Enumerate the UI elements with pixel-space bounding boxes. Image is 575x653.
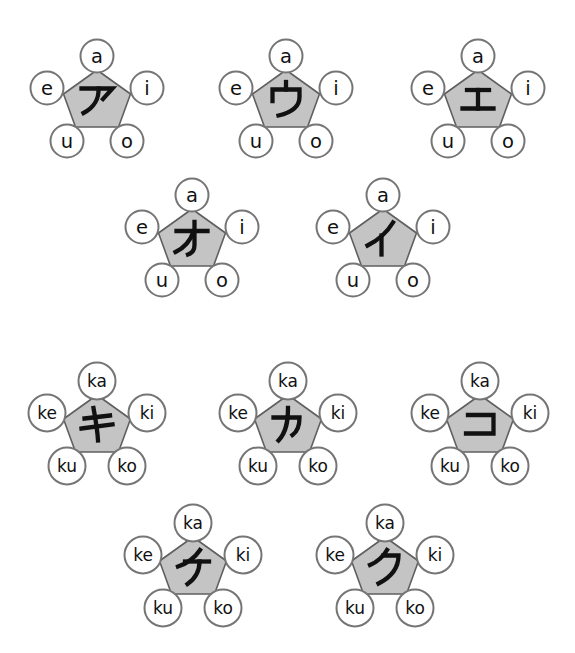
romaji-label-bottom-left: u bbox=[442, 130, 454, 153]
romaji-label-left: ke bbox=[133, 545, 153, 565]
romaji-label-bottom-right: ko bbox=[500, 456, 520, 476]
romaji-label-right: i bbox=[144, 77, 149, 100]
kana-unit-u: a e i u o bbox=[211, 35, 361, 165]
kana-unit-ke: ka ke ki ku ko bbox=[118, 502, 268, 632]
romaji-label-top: a bbox=[186, 184, 198, 207]
pentagon-shape bbox=[447, 395, 514, 452]
romaji-label-bottom-left: u bbox=[250, 130, 262, 153]
kana-unit-e: a e i u o bbox=[403, 35, 553, 165]
katakana-pentagon-diagram: a e i u o a e i u o a e i u o bbox=[0, 0, 575, 653]
romaji-label-bottom-left: ku bbox=[248, 456, 268, 476]
romaji-label-bottom-right: o bbox=[502, 130, 514, 153]
romaji-label-left: e bbox=[422, 77, 434, 100]
romaji-label-bottom-right: ko bbox=[405, 598, 425, 618]
kana-unit-o: a e i u o bbox=[117, 174, 267, 304]
kana-unit-ki: ka ke ki ku ko bbox=[22, 360, 172, 490]
romaji-label-left: e bbox=[230, 77, 242, 100]
pentagon-shape bbox=[253, 70, 320, 127]
romaji-label-right: ki bbox=[523, 403, 538, 423]
romaji-label-top: ka bbox=[183, 513, 203, 533]
romaji-label-right: i bbox=[525, 77, 530, 100]
romaji-label-left: ke bbox=[325, 545, 345, 565]
romaji-label-right: i bbox=[430, 216, 435, 239]
romaji-label-bottom-right: ko bbox=[213, 598, 233, 618]
kana-unit-ka: ka ke ki ku ko bbox=[213, 360, 363, 490]
romaji-label-top: a bbox=[91, 45, 103, 68]
romaji-label-left: ke bbox=[228, 403, 248, 423]
romaji-label-top: a bbox=[377, 184, 389, 207]
romaji-label-top: a bbox=[280, 45, 292, 68]
pentagon-shape bbox=[352, 537, 419, 594]
romaji-label-top: ka bbox=[375, 513, 395, 533]
romaji-label-right: ki bbox=[236, 545, 251, 565]
romaji-label-bottom-left: u bbox=[61, 130, 73, 153]
romaji-label-bottom-right: o bbox=[407, 269, 419, 292]
romaji-label-left: ke bbox=[37, 403, 57, 423]
romaji-label-bottom-left: u bbox=[156, 269, 168, 292]
romaji-label-top: ka bbox=[470, 371, 490, 391]
romaji-label-bottom-left: ku bbox=[57, 456, 77, 476]
romaji-label-left: e bbox=[41, 77, 53, 100]
romaji-label-right: ki bbox=[428, 545, 443, 565]
romaji-label-top: ka bbox=[87, 371, 107, 391]
romaji-label-left: ke bbox=[420, 403, 440, 423]
kana-unit-ko: ka ke ki ku ko bbox=[405, 360, 555, 490]
romaji-label-right: ki bbox=[140, 403, 155, 423]
pentagon-shape bbox=[160, 537, 227, 594]
romaji-label-top: ka bbox=[278, 371, 298, 391]
romaji-label-right: i bbox=[333, 77, 338, 100]
kana-unit-a: a e i u o bbox=[22, 35, 172, 165]
kana-unit-ku: ka ke ki ku ko bbox=[310, 502, 460, 632]
romaji-label-left: e bbox=[136, 216, 148, 239]
romaji-label-left: e bbox=[327, 216, 339, 239]
romaji-label-top: a bbox=[472, 45, 484, 68]
romaji-label-bottom-right: ko bbox=[117, 456, 137, 476]
romaji-label-bottom-left: u bbox=[347, 269, 359, 292]
kana-unit-i: a e i u o bbox=[308, 174, 458, 304]
romaji-label-bottom-right: o bbox=[310, 130, 322, 153]
romaji-label-right: ki bbox=[331, 403, 346, 423]
romaji-label-bottom-left: ku bbox=[345, 598, 365, 618]
romaji-label-bottom-left: ku bbox=[153, 598, 173, 618]
romaji-label-right: i bbox=[239, 216, 244, 239]
romaji-label-bottom-right: o bbox=[216, 269, 228, 292]
romaji-label-bottom-right: ko bbox=[308, 456, 328, 476]
romaji-label-bottom-left: ku bbox=[440, 456, 460, 476]
romaji-label-bottom-right: o bbox=[121, 130, 133, 153]
